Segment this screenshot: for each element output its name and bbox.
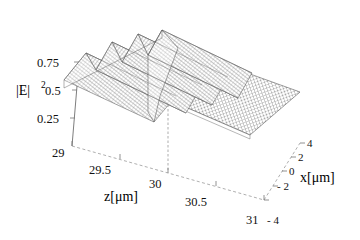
v-axis-title-exponent: 2: [41, 80, 46, 90]
z-tick-label-4: 31: [246, 213, 259, 227]
plot-canvas: 0.75 0.5 0.25 |E| 2 29 29.5 30 30.5 31 z…: [0, 0, 360, 240]
x-tick-label-3: - 2: [277, 180, 289, 192]
z-tick-label-0: 29: [52, 146, 65, 160]
v-tick-label-0: 0.75: [37, 56, 59, 70]
figure-3d-surface-plot: 0.75 0.5 0.25 |E| 2 29 29.5 30 30.5 31 z…: [0, 0, 360, 240]
v-tick-label-2: 0.25: [37, 112, 59, 126]
x-tick-label-2: 0: [289, 165, 295, 177]
x-tick-label-4: - 4: [267, 214, 279, 226]
z-tick-label-1: 29.5: [89, 163, 111, 177]
x-tick-label-0: 4: [307, 137, 313, 149]
z-axis-title: z[μm]: [104, 189, 138, 204]
x-tick-label-1: 2: [298, 151, 304, 163]
v-axis-title: |E| 2: [16, 80, 46, 98]
v-tick-label-1: 0.5: [45, 84, 61, 98]
z-tick-label-3: 30.5: [185, 195, 207, 209]
v-axis-title-base: |E|: [16, 83, 30, 98]
x-axis-title: x[μm]: [300, 170, 335, 185]
z-tick-label-2: 30: [149, 177, 162, 191]
